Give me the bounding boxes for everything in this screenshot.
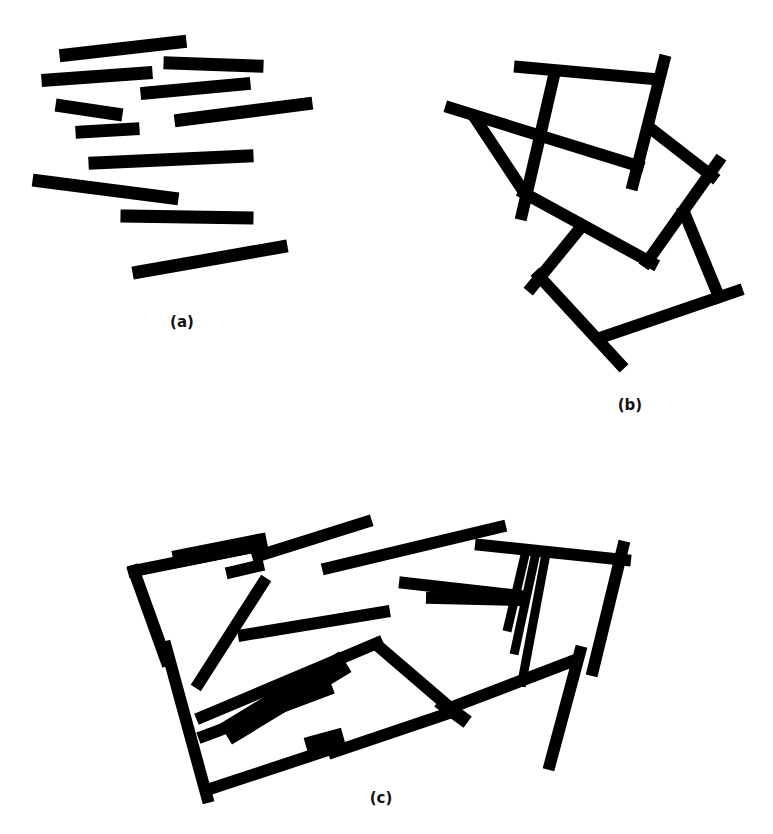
bar-c-18 <box>334 711 455 752</box>
bar-c-22 <box>432 598 520 600</box>
bar-c-3 <box>232 566 258 572</box>
bar-c-4 <box>258 522 366 556</box>
bar-a-2 <box>48 73 146 80</box>
figure-canvas: (a) (b) (c) <box>0 0 773 834</box>
bar-a-6 <box>181 104 306 120</box>
bar-c-26 <box>593 547 623 670</box>
bar-b-7 <box>650 128 712 176</box>
bar-c-10 <box>244 612 384 635</box>
bar-a-10 <box>127 216 247 218</box>
panel-b-connected-bars <box>451 61 737 364</box>
panel-a-label: (a) <box>170 313 194 331</box>
panel-a-scattered-bars <box>39 42 306 272</box>
bar-c-5 <box>328 527 500 568</box>
bar-b-1 <box>520 67 653 79</box>
bar-a-8 <box>95 156 247 163</box>
bar-b-10 <box>539 276 620 364</box>
bar-a-11 <box>139 247 281 272</box>
panel-b-label: (b) <box>618 396 642 414</box>
bar-b-12 <box>684 212 719 297</box>
bar-a-4 <box>147 84 244 93</box>
bar-c-6 <box>481 545 625 560</box>
bar-a-7 <box>82 129 133 132</box>
bar-a-1 <box>66 42 180 55</box>
panel-c-dense-cluster <box>134 522 625 797</box>
bar-a-5 <box>62 106 116 114</box>
bar-a-3 <box>170 63 257 66</box>
bar-a-9 <box>39 181 172 198</box>
bar-c-2 <box>182 543 258 558</box>
panel-c-label: (c) <box>370 789 393 807</box>
bar-c-19 <box>455 662 570 706</box>
bar-c-17 <box>316 740 334 745</box>
